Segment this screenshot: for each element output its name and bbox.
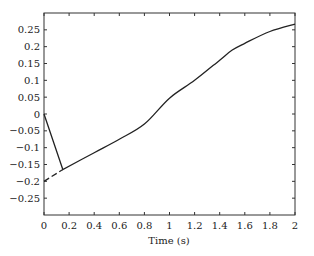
plot-frame: [44, 13, 295, 215]
x-tick-label: 0.6: [111, 220, 127, 231]
y-tick-label: 0.1: [24, 75, 40, 86]
y-tick-label: −0.2: [16, 176, 40, 187]
y-tick-label: −0.25: [9, 193, 40, 204]
y-tick-label: 0.05: [18, 92, 40, 103]
x-axis-ticks: 00.20.40.60.811.21.41.61.82: [41, 13, 298, 231]
x-tick-label: 1.4: [212, 220, 228, 231]
series-layer: [44, 24, 295, 181]
series-dashed-line: [44, 170, 63, 182]
x-tick-label: 0.2: [61, 220, 77, 231]
y-tick-label: −0.15: [9, 159, 40, 170]
axes-box: [44, 13, 295, 215]
series-solid-line: [44, 24, 295, 169]
x-tick-label: 1.8: [262, 220, 278, 231]
y-tick-label: 0.2: [24, 41, 40, 52]
x-tick-label: 0.4: [86, 220, 102, 231]
x-tick-label: 0: [41, 220, 47, 231]
x-tick-label: 1.6: [237, 220, 253, 231]
x-tick-label: 1: [166, 220, 172, 231]
y-tick-label: −0.1: [16, 142, 40, 153]
y-tick-label: 0: [34, 109, 40, 120]
y-tick-label: −0.05: [9, 125, 40, 136]
line-chart: 00.20.40.60.811.21.41.61.82 0.250.20.150…: [0, 0, 314, 256]
x-tick-label: 0.8: [136, 220, 152, 231]
x-tick-label: 2: [292, 220, 298, 231]
y-tick-label: 0.25: [18, 24, 40, 35]
x-axis-label: Time (s): [148, 235, 189, 246]
x-tick-label: 1.2: [187, 220, 203, 231]
y-tick-label: 0.15: [18, 58, 40, 69]
